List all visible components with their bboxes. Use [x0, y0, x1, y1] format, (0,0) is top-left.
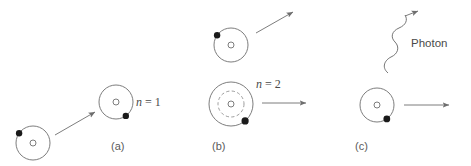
diagram-canvas — [0, 0, 471, 166]
nucleus-icon — [30, 140, 36, 146]
shell-label-n1: n = 1 — [136, 95, 161, 110]
panel-label-c: (c) — [355, 140, 368, 152]
electron-shell-ring-inner — [218, 91, 244, 117]
electron-dot — [16, 130, 22, 136]
atom-incoming-electron — [16, 126, 50, 160]
electron-dot — [123, 113, 129, 119]
nucleus-icon — [374, 102, 380, 108]
nucleus-icon — [228, 42, 234, 48]
electron-dot — [242, 117, 249, 124]
photon-label: Photon — [411, 37, 447, 49]
atom-scattered-electron — [214, 28, 248, 62]
atom-excited-state — [209, 82, 253, 126]
atom-decayed-state — [360, 88, 394, 122]
arrow-electron-incoming — [55, 112, 95, 135]
physics-diagram-figure: n = 1 n = 2 Photon (a) (b) (c) — [0, 0, 471, 166]
atom-ground-state — [99, 85, 133, 119]
electron-dot — [214, 32, 220, 38]
photon-wave-line — [384, 15, 406, 73]
panel-b-group — [209, 12, 306, 126]
shell-label-value: = 1 — [142, 95, 161, 109]
nucleus-icon — [113, 99, 119, 105]
arrow-photon-emitted — [405, 11, 418, 16]
shell-label-value: = 2 — [262, 77, 281, 91]
electron-dot — [383, 116, 390, 123]
panel-label-b: (b) — [212, 140, 225, 152]
panel-label-a: (a) — [111, 140, 124, 152]
shell-label-n2: n = 2 — [256, 77, 281, 92]
arrow-electron-scattered — [256, 12, 293, 33]
nucleus-icon — [228, 101, 234, 107]
panel-c-group — [360, 11, 449, 122]
